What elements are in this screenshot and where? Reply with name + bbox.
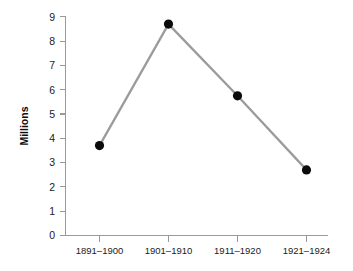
data-point-marker <box>95 141 104 150</box>
data-point-marker <box>302 165 311 174</box>
x-tick-labels: 1891–1900 1901–1910 1911–1920 1921–1924 <box>76 245 331 256</box>
y-tick-label-0: 0 <box>49 229 55 241</box>
y-tick-label-9: 9 <box>49 11 55 23</box>
y-tick-label-7: 7 <box>49 59 55 71</box>
y-tick-label-5: 5 <box>49 108 55 120</box>
line-chart: 0 1 2 3 4 5 6 7 8 9 1891–1900 1901–1910 … <box>0 0 353 271</box>
x-tick-label-0: 1891–1900 <box>76 245 124 256</box>
series-group <box>95 19 311 174</box>
y-tick-label-8: 8 <box>49 35 55 47</box>
y-axis-title: Millions <box>18 106 30 145</box>
data-point-marker <box>164 19 173 28</box>
y-tick-group <box>60 17 66 236</box>
axis-group <box>66 17 329 236</box>
x-tick-label-1: 1901–1910 <box>145 245 193 256</box>
x-tick-group <box>100 236 307 242</box>
series-line-millions <box>100 24 307 170</box>
x-tick-label-2: 1911–1920 <box>214 245 261 256</box>
x-tick-label-3: 1921–1924 <box>283 245 331 256</box>
chart-canvas: 0 1 2 3 4 5 6 7 8 9 1891–1900 1901–1910 … <box>0 0 353 271</box>
data-point-marker <box>233 91 242 100</box>
y-tick-label-6: 6 <box>49 84 55 96</box>
y-tick-label-2: 2 <box>49 181 55 193</box>
y-tick-label-4: 4 <box>49 132 55 144</box>
y-tick-label-1: 1 <box>49 205 55 217</box>
y-tick-label-3: 3 <box>49 156 55 168</box>
y-tick-labels: 0 1 2 3 4 5 6 7 8 9 <box>49 11 55 242</box>
